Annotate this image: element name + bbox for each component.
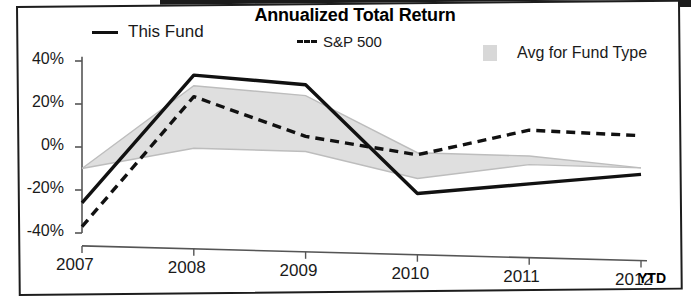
annualized-total-return-chart: Annualized Total Return This Fund S&P 50… [0,0,691,303]
chart-plot-svg [0,0,691,303]
